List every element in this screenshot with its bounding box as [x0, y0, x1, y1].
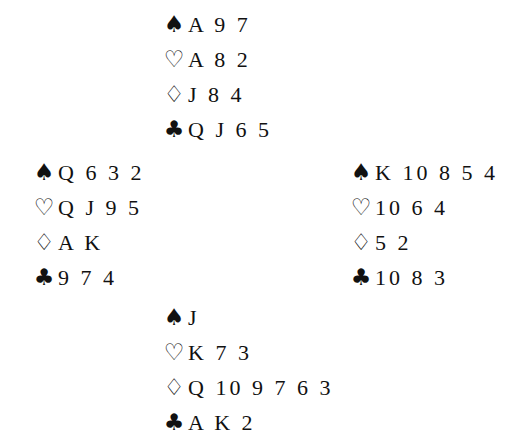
west-spades-cards: Q 6 3 2 [58, 155, 144, 190]
heart-icon: ♡ [349, 196, 373, 219]
south-hearts: ♡ K 7 3 [162, 335, 333, 370]
south-clubs-cards: A K 2 [188, 405, 256, 440]
west-diamonds: ♢ A K [32, 225, 144, 260]
south-clubs: ♣ A K 2 [162, 405, 333, 440]
hand-east: ♠ K 10 8 5 4 ♡ 10 6 4 ♢ 5 2 ♣ 10 8 3 [349, 155, 498, 295]
south-hearts-cards: K 7 3 [188, 335, 252, 370]
heart-icon: ♡ [162, 48, 186, 71]
west-clubs: ♣ 9 7 4 [32, 260, 144, 295]
north-hearts-cards: A 8 2 [188, 42, 251, 77]
north-hearts: ♡ A 8 2 [162, 42, 272, 77]
west-hearts-cards: Q J 9 5 [58, 190, 142, 225]
diamond-icon: ♢ [162, 376, 186, 399]
north-diamonds: ♢ J 8 4 [162, 77, 272, 112]
club-icon: ♣ [349, 266, 373, 289]
heart-icon: ♡ [162, 341, 186, 364]
south-spades-cards: J [188, 300, 200, 335]
north-diamonds-cards: J 8 4 [188, 77, 245, 112]
south-diamonds-cards: Q 10 9 7 6 3 [188, 370, 333, 405]
diamond-icon: ♢ [162, 83, 186, 106]
south-diamonds: ♢ Q 10 9 7 6 3 [162, 370, 333, 405]
spade-icon: ♠ [162, 13, 186, 36]
north-spades-cards: A 9 7 [188, 7, 251, 42]
spade-icon: ♠ [349, 161, 373, 184]
heart-icon: ♡ [32, 196, 56, 219]
east-hearts-cards: 10 6 4 [375, 190, 448, 225]
east-diamonds: ♢ 5 2 [349, 225, 498, 260]
east-diamonds-cards: 5 2 [375, 225, 412, 260]
west-diamonds-cards: A K [58, 225, 103, 260]
east-clubs: ♣ 10 8 3 [349, 260, 498, 295]
north-spades: ♠ A 9 7 [162, 7, 272, 42]
club-icon: ♣ [32, 266, 56, 289]
west-clubs-cards: 9 7 4 [58, 260, 117, 295]
east-clubs-cards: 10 8 3 [375, 260, 448, 295]
north-clubs-cards: Q J 6 5 [188, 112, 272, 147]
east-spades-cards: K 10 8 5 4 [375, 155, 498, 190]
diamond-icon: ♢ [32, 231, 56, 254]
club-icon: ♣ [162, 118, 186, 141]
hand-south: ♠ J ♡ K 7 3 ♢ Q 10 9 7 6 3 ♣ A K 2 [162, 300, 333, 440]
diamond-icon: ♢ [349, 231, 373, 254]
west-hearts: ♡ Q J 9 5 [32, 190, 144, 225]
north-clubs: ♣ Q J 6 5 [162, 112, 272, 147]
hand-north: ♠ A 9 7 ♡ A 8 2 ♢ J 8 4 ♣ Q J 6 5 [162, 7, 272, 147]
west-spades: ♠ Q 6 3 2 [32, 155, 144, 190]
hand-west: ♠ Q 6 3 2 ♡ Q J 9 5 ♢ A K ♣ 9 7 4 [32, 155, 144, 295]
club-icon: ♣ [162, 411, 186, 434]
east-hearts: ♡ 10 6 4 [349, 190, 498, 225]
south-spades: ♠ J [162, 300, 333, 335]
spade-icon: ♠ [162, 306, 186, 329]
east-spades: ♠ K 10 8 5 4 [349, 155, 498, 190]
spade-icon: ♠ [32, 161, 56, 184]
